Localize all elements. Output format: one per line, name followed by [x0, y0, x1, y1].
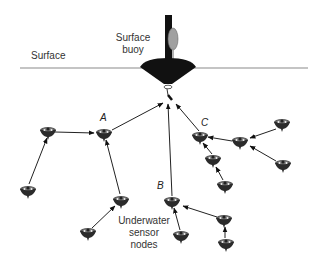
surface-buoy-label: Surface buoy: [108, 32, 158, 56]
edge-n3-n1: [29, 138, 47, 184]
sensor-node-icon: [218, 239, 234, 252]
edge-n14-n11: [250, 146, 276, 161]
buoy-anchor-ring: [164, 85, 172, 89]
sensor-node-icon: [274, 119, 290, 132]
buoy-float: [168, 28, 178, 50]
edge-n11-n10: [208, 137, 232, 141]
edge-n15-n13: [216, 167, 223, 180]
sensor-node-icon: [20, 186, 36, 199]
sensor-node-icon: [205, 155, 221, 168]
sensor-node-icon: [40, 127, 56, 140]
sensor-node-icon: [192, 132, 208, 145]
sensor-node-icon: [96, 129, 112, 142]
buoy-cone: [140, 58, 196, 84]
edge-n5-n4: [92, 206, 115, 228]
surface-label: Surface: [31, 50, 65, 62]
sensor-node-icon: [216, 215, 232, 228]
surface-buoy-label-line2: buoy: [108, 44, 158, 56]
edge-n10-buoy: [176, 104, 199, 131]
sensor-node-icon: [80, 228, 96, 241]
underwater-sensor-nodes-label: Underwater sensor nodes: [118, 215, 170, 251]
sensor-label-line1: Underwater: [118, 215, 170, 227]
sensor-node-icon: [232, 137, 248, 150]
edge-n1-n2: [55, 132, 94, 133]
sensor-label-line3: nodes: [118, 239, 170, 251]
sensor-node-icon: [275, 160, 291, 173]
edge-n13-n10: [203, 143, 212, 154]
sensor-node-icon: [217, 181, 233, 194]
surface-buoy-label-line1: Surface: [108, 32, 158, 44]
edge-n8-n6: [183, 206, 217, 217]
sensor-node-icon: [164, 197, 180, 210]
sensor-node-icon: [173, 231, 189, 244]
edge-n12-n11: [250, 129, 276, 138]
cluster-label-c: C: [201, 117, 208, 129]
cluster-label-a: A: [100, 112, 107, 124]
edge-n4-n2: [106, 140, 120, 194]
sensor-label-line2: sensor: [118, 227, 170, 239]
edge-n6-buoy: [168, 104, 172, 196]
cluster-label-b: B: [157, 180, 164, 192]
sensor-node-icon: [113, 196, 129, 209]
edge-n7-n6: [174, 208, 180, 230]
edge-n2-buoy: [112, 103, 163, 130]
surface-buoy: [140, 15, 196, 100]
